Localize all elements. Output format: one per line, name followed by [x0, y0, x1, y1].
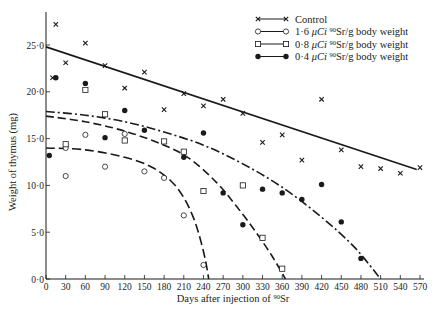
- legend-item: 1·6 μCi 90Sr/g body weight: [255, 26, 408, 38]
- marker-filled-circle: [358, 256, 363, 261]
- marker-x: [54, 22, 58, 26]
- fit-line-x: [46, 47, 417, 170]
- y-axis-title: Weight of thymus (mg): [7, 112, 19, 211]
- legend-label: 0·4 μCi 90Sr/g body weight: [295, 51, 408, 63]
- x-tick-label: 480: [354, 282, 369, 292]
- marker-filled-circle: [255, 54, 260, 59]
- x-tick-label: 0: [44, 282, 49, 292]
- x-tick-label: 90: [100, 282, 110, 292]
- marker-open-circle: [181, 213, 186, 218]
- marker-filled-circle: [53, 75, 58, 80]
- marker-open-square: [255, 41, 260, 46]
- y-tick-label: 5·0: [31, 228, 44, 238]
- legend-item: Control: [256, 14, 327, 25]
- legend-item: 0·8 μCi 90Sr/g body weight: [255, 38, 408, 50]
- marker-x: [63, 61, 67, 65]
- x-tick-label: 60: [81, 282, 91, 292]
- marker-filled-circle: [220, 190, 225, 195]
- marker-filled-circle: [142, 127, 147, 132]
- marker-open-circle: [255, 29, 260, 34]
- x-tick-label: 390: [295, 282, 310, 292]
- legend: Control1·6 μCi 90Sr/g body weight0·8 μCi…: [255, 14, 408, 63]
- x-tick-label: 120: [118, 282, 133, 292]
- marker-open-circle: [83, 132, 88, 137]
- marker-x: [280, 133, 284, 137]
- marker-filled-circle: [280, 190, 285, 195]
- x-tick-label: 180: [157, 282, 172, 292]
- marker-filled-circle: [83, 81, 88, 86]
- marker-open-square: [240, 183, 245, 188]
- x-tick-label: 330: [255, 282, 270, 292]
- marker-x: [260, 140, 264, 144]
- marker-x: [398, 171, 402, 175]
- marker-filled-circle: [299, 197, 304, 202]
- y-tick-label: 10·0: [27, 181, 45, 191]
- x-axis-title-prefix: Days after injection of: [177, 293, 274, 304]
- marker-x: [300, 158, 304, 162]
- marker-x: [123, 86, 127, 90]
- marker-x: [319, 97, 323, 101]
- marker-open-circle: [283, 29, 288, 34]
- marker-x: [201, 104, 205, 108]
- marker-filled-circle: [319, 182, 324, 187]
- marker-x: [359, 164, 363, 168]
- legend-item: 0·4 μCi 90Sr/g body weight: [255, 51, 408, 63]
- x-axis-title-suffix: Sr: [280, 293, 290, 304]
- marker-filled-circle: [201, 130, 206, 135]
- marker-filled-circle: [339, 219, 344, 224]
- y-tick-label: 15·0: [27, 134, 45, 144]
- y-tick-label: 0·0: [31, 275, 44, 285]
- marker-x: [83, 41, 87, 45]
- marker-open-square: [63, 142, 68, 147]
- marker-filled-circle: [240, 222, 245, 227]
- marker-x: [378, 166, 382, 170]
- marker-open-square: [181, 149, 186, 154]
- x-axis-title: Days after injection of 90Sr: [177, 293, 290, 305]
- marker-open-circle: [122, 131, 127, 136]
- marker-open-square: [283, 41, 288, 46]
- marker-x: [162, 107, 166, 111]
- marker-open-square: [102, 112, 107, 117]
- x-tick-label: 360: [275, 282, 290, 292]
- marker-filled-circle: [181, 155, 186, 160]
- marker-open-square: [122, 138, 127, 143]
- marker-open-square: [83, 87, 88, 92]
- x-tick-label: 510: [374, 282, 389, 292]
- y-tick-label: 20·0: [27, 87, 45, 97]
- marker-open-circle: [142, 169, 147, 174]
- marker-open-square: [280, 266, 285, 271]
- marker-filled-circle: [283, 54, 288, 59]
- x-tick-label: 150: [137, 282, 152, 292]
- marker-open-square: [260, 235, 265, 240]
- x-tick-label: 450: [334, 282, 349, 292]
- x-tick-label: 570: [413, 282, 428, 292]
- marker-open-circle: [63, 173, 68, 178]
- marker-filled-circle: [122, 108, 127, 113]
- marker-x: [339, 148, 343, 152]
- x-tick-label: 270: [216, 282, 231, 292]
- x-tick-label: 240: [196, 282, 211, 292]
- marker-open-circle: [162, 175, 167, 180]
- marker-open-square: [162, 139, 167, 144]
- x-tick-label: 420: [314, 282, 329, 292]
- y-tick-label: 25·0: [27, 41, 45, 51]
- x-tick-label: 30: [61, 282, 71, 292]
- fit-lines: [46, 47, 417, 279]
- marker-x: [221, 97, 225, 101]
- marker-open-square: [201, 188, 206, 193]
- marker-filled-circle: [47, 153, 52, 158]
- x-tick-label: 540: [393, 282, 408, 292]
- legend-label: Control: [295, 14, 327, 25]
- marker-filled-circle: [260, 186, 265, 191]
- thymus-weight-chart: 0306090120150180210240270300330360390420…: [0, 0, 435, 315]
- marker-x: [418, 165, 422, 169]
- legend-label: 1·6 μCi 90Sr/g body weight: [295, 26, 408, 38]
- x-tick-label: 300: [236, 282, 251, 292]
- marker-open-circle: [102, 164, 107, 169]
- marker-x: [142, 70, 146, 74]
- marker-filled-circle: [102, 135, 107, 140]
- fit-line-filled-circle: [46, 111, 381, 279]
- x-tick-label: 210: [177, 282, 192, 292]
- legend-label: 0·8 μCi 90Sr/g body weight: [295, 38, 408, 50]
- marker-open-circle: [201, 262, 206, 267]
